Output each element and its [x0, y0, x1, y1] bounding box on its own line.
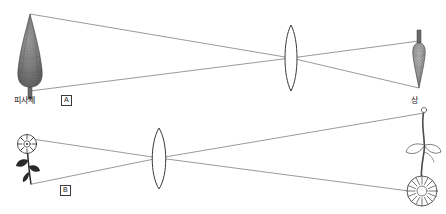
object-flower	[16, 135, 40, 185]
ray-diagram-figure: 피사체 A B 상	[0, 0, 446, 214]
ray-b-base	[32, 158, 159, 184]
lens-b	[152, 128, 166, 189]
image-tree-inverted	[410, 30, 430, 91]
ray-a-base	[30, 58, 291, 91]
object-tree	[16, 12, 46, 99]
panel-badge-b: B	[60, 185, 71, 196]
panel-a-rays	[30, 14, 419, 91]
ray-b-top-refracted	[159, 158, 424, 193]
ray-b-base-refracted	[159, 113, 424, 158]
panel-b-rays	[32, 113, 424, 193]
ray-a-base-refracted	[291, 41, 419, 58]
diagram-canvas	[0, 0, 446, 214]
image-flower-inverted	[406, 107, 441, 206]
flower-petals	[18, 135, 37, 154]
flower-image-petals	[407, 176, 437, 206]
lens-a	[285, 25, 297, 91]
label-image-right: 상	[411, 97, 418, 105]
ray-a-top	[30, 14, 291, 58]
ray-b-top	[32, 139, 159, 158]
label-subject-top: 피사체	[14, 97, 36, 105]
panel-badge-a: A	[61, 95, 72, 106]
ray-a-top-refracted	[291, 58, 419, 88]
